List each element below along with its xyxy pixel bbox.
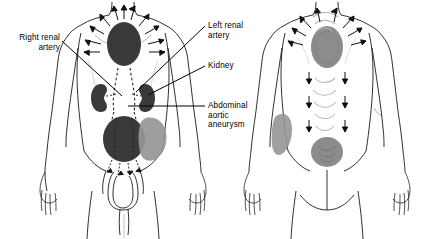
posterior-right-hand xyxy=(393,172,410,215)
leader-left-renal-artery xyxy=(136,26,205,92)
anterior-view xyxy=(40,2,206,239)
anterior-left-flank-referred-pain xyxy=(139,118,167,161)
anterior-left-hand xyxy=(40,172,57,215)
posterior-left-hand xyxy=(244,172,261,215)
label-right-renal-artery: Right renal artery xyxy=(0,33,60,52)
leader-kidney xyxy=(148,66,205,95)
upper-back-pain-region xyxy=(311,26,343,68)
lumbar-arcs xyxy=(313,78,336,131)
sacral-pain-region xyxy=(311,137,343,167)
aneurysm-radiating-arrows xyxy=(107,160,141,175)
label-left-renal-artery: Left renal artery xyxy=(208,21,278,40)
left-kidney xyxy=(139,84,155,112)
lumbar-vertical-arrows xyxy=(306,72,347,132)
label-abdominal-aortic-aneurysm: Abdominal aortic aneurysm xyxy=(208,101,278,130)
right-kidney xyxy=(91,84,107,112)
renal-artery-stubs xyxy=(106,94,142,96)
diagram-canvas: Right renal artery Left renal artery Kid… xyxy=(0,0,430,239)
anterior-right-hand xyxy=(189,172,206,215)
label-kidney: Kidney xyxy=(208,61,278,71)
chest-epigastric-pain-region xyxy=(107,22,141,66)
